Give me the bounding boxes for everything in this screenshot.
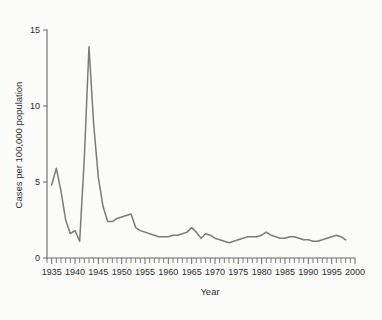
x-tick-label: 1960 [158, 267, 178, 277]
x-tick-label: 1975 [228, 267, 248, 277]
y-tick-label: 0 [35, 253, 40, 263]
x-tick-label: 1965 [182, 267, 202, 277]
x-tick-label: 1935 [42, 267, 62, 277]
y-tick-label: 10 [30, 101, 40, 111]
x-tick-label: 1950 [112, 267, 132, 277]
y-tick-label: 15 [30, 25, 40, 35]
x-tick-label: 1970 [205, 267, 225, 277]
y-tick-label: 5 [35, 177, 40, 187]
x-tick-label: 1980 [252, 267, 272, 277]
x-tick-label: 2000 [345, 267, 365, 277]
x-tick-label: 1995 [322, 267, 342, 277]
x-tick-label: 1945 [88, 267, 108, 277]
x-tick-label: 1985 [275, 267, 295, 277]
y-axis-title: Cases per 100,000 population [13, 82, 24, 209]
line-chart: 051015 193519401945195019551960196519701… [0, 0, 382, 320]
figure-page: 051015 193519401945195019551960196519701… [0, 0, 382, 320]
x-axis-title: Year [200, 286, 219, 297]
x-tick-label: 1955 [135, 267, 155, 277]
x-tick-label: 1940 [65, 267, 85, 277]
x-tick-label: 1990 [298, 267, 318, 277]
